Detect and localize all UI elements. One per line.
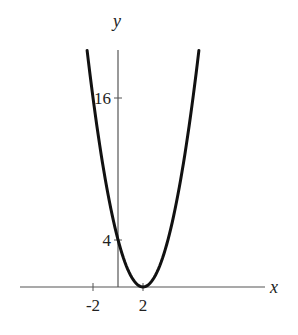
y-axis-label: y	[111, 11, 121, 31]
y-tick-label-4: 4	[103, 231, 112, 250]
x-tick-label-neg2: -2	[86, 296, 100, 315]
x-axis-label: x	[269, 277, 278, 297]
x-tick-label-2: 2	[139, 296, 148, 315]
y-tick-label-16: 16	[94, 89, 111, 108]
parabola-chart: -2 2 16 4 x y	[0, 0, 298, 335]
parabola-curve	[87, 50, 199, 287]
